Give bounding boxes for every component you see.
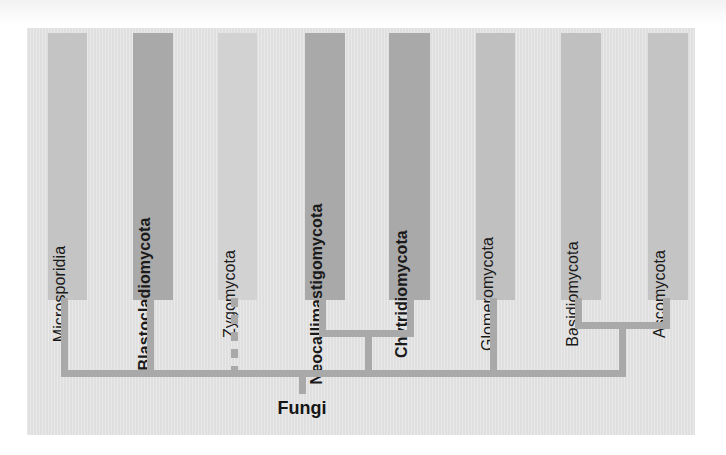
taxon-bar: Chytridiomycota [389, 33, 430, 300]
clade-stem [619, 322, 626, 377]
figure-canvas: MicrosporidiaBlastocladiomycotaZygomycot… [0, 0, 726, 455]
taxon-bar: Neocallimastigomycota [305, 33, 345, 300]
main-trunk [61, 370, 625, 377]
taxon-stem [231, 298, 238, 377]
taxon-stem [490, 298, 497, 377]
root-label-fungi: Fungi [278, 398, 327, 419]
taxon-label: Basidiomycota [565, 241, 581, 346]
taxon-bar: Basidiomycota [561, 33, 601, 300]
taxon-stem [61, 298, 68, 377]
taxon-bar: Blastocladiomycota [133, 33, 173, 300]
taxon-bar: Microsporidia [48, 33, 87, 300]
taxon-label: Chytridiomycota [394, 230, 410, 358]
taxon-bar: Glomeromycota [476, 33, 515, 300]
diagram-panel: MicrosporidiaBlastocladiomycotaZygomycot… [27, 28, 695, 435]
taxon-stem [147, 298, 154, 377]
taxon-label: Neocallimastigomycota [309, 204, 325, 385]
taxon-bar: Ascomycota [648, 33, 688, 300]
scan-top-margin [0, 0, 726, 26]
taxon-bar: Zygomycota [218, 33, 257, 300]
root-stem [299, 370, 306, 394]
